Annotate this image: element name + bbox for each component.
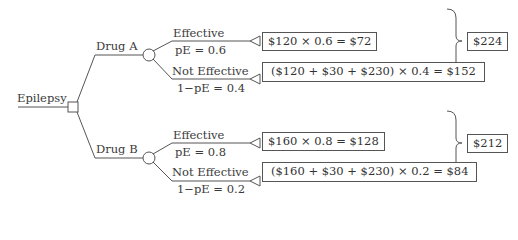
prob-label-a-effective: pE = 0.6 xyxy=(175,45,226,57)
calc-box-b-not-effective: ($160 + $30 + $230) × 0.2 = $84 xyxy=(262,162,477,182)
terminal-triangle-a-not-effective xyxy=(250,74,260,84)
prob-label-a-not-effective: 1−pE = 0.4 xyxy=(177,83,245,95)
outcome-label-b-effective: Effective xyxy=(173,130,224,142)
branch-label-drug-a: Drug A xyxy=(96,41,137,53)
terminal-triangle-b-not-effective xyxy=(250,176,260,186)
outcome-label-a-not-effective: Not Effective xyxy=(172,66,249,78)
outcome-label-b-not-effective: Not Effective xyxy=(172,167,249,179)
total-box-drug-a: $224 xyxy=(467,32,508,51)
total-box-drug-b: $212 xyxy=(467,134,508,153)
calc-box-b-effective: $160 × 0.8 = $128 xyxy=(262,132,385,151)
root-label: Epilepsy xyxy=(17,93,67,105)
branch-label-drug-b: Drug B xyxy=(96,144,138,156)
terminal-triangle-b-effective xyxy=(250,138,260,148)
terminal-triangle-a-effective xyxy=(250,36,260,46)
prob-label-b-effective: pE = 0.8 xyxy=(175,147,226,159)
decision-node-square xyxy=(68,102,78,112)
prob-label-b-not-effective: 1−pE = 0.2 xyxy=(177,184,245,195)
calc-box-a-effective: $120 × 0.6 = $72 xyxy=(262,32,377,51)
outcome-label-a-effective: Effective xyxy=(173,28,224,40)
calc-box-a-not-effective: ($120 + $30 + $230) × 0.4 = $152 xyxy=(262,62,485,82)
